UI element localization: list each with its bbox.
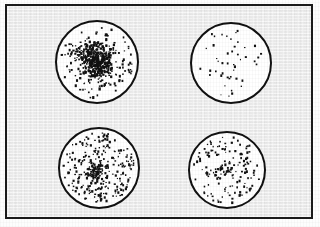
sample-circle-bottom-right xyxy=(188,131,266,209)
sample-circle-top-left xyxy=(55,20,139,104)
dot-scatter-top-right xyxy=(192,24,270,102)
dot-scatter-top-left xyxy=(57,22,137,102)
figure-root xyxy=(0,0,320,227)
plot-frame xyxy=(5,4,313,219)
sample-circle-bottom-left xyxy=(58,127,140,209)
dot-scatter-bottom-left xyxy=(60,129,138,207)
dot-scatter-bottom-right xyxy=(190,133,264,207)
sample-circle-top-right xyxy=(190,22,272,104)
